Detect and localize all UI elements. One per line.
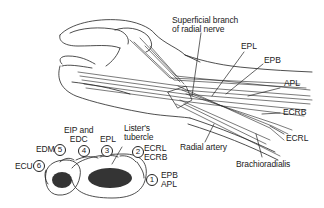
label-ecrb: ECRB [283,108,306,117]
label-line: of radial nerve [172,25,238,34]
label-apl: APL [284,79,300,88]
label-epb: EPB [264,56,281,65]
label-compartment-2-muscles: ECRL ECRB [144,144,167,162]
label-compartment-6-muscles: ECU [15,162,33,171]
compartment-5-number: 5 [54,144,66,156]
label-epl: EPL [241,42,257,51]
compartment-1-number: 1 [146,174,158,186]
bone-stipple [52,168,132,188]
compartment-4-number: 4 [78,145,90,157]
label-ecrl: ECRL [286,134,308,143]
anatomy-diagram: Superficial branch of radial nerve EPL E… [0,0,324,208]
label-brachioradialis: Brachioradialis [236,160,290,169]
compartment-3-number: 3 [101,145,113,157]
label-superficial-branch-radial-nerve: Superficial branch of radial nerve [172,16,238,34]
label-compartment-3-muscles: EPL [100,135,116,144]
label-line: ECRB [144,153,167,162]
label-line: EDC [64,135,93,144]
label-compartment-1-muscles: EPB APL [161,171,178,189]
label-compartment-4-muscles: EIP and EDC [64,126,93,144]
label-radial-artery: Radial artery [180,143,227,152]
label-line: tubercle [124,133,153,142]
label-listers-tubercle: Lister's tubercle [124,124,153,142]
label-compartment-5-muscles: EDM [36,145,55,154]
label-line: APL [161,180,178,189]
compartment-6-number: 6 [33,160,45,172]
compartment-2-number: 2 [132,146,144,158]
